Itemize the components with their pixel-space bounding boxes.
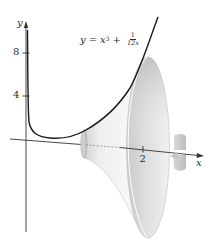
horn-narrow-end [81, 130, 87, 158]
eq-fraction: 1 12x [126, 32, 140, 46]
curve-equation-label: y = x3 + 1 12x [80, 32, 140, 46]
y-axis-label: y [17, 18, 23, 28]
eq-term1-base: x [100, 34, 106, 45]
y-tick-label-8: 8 [13, 47, 19, 57]
x-tick-label-2: 2 [140, 154, 146, 164]
eq-lhs: y [80, 34, 86, 45]
horn-mouth-shade [127, 57, 170, 238]
y-tick-label-4: 4 [13, 90, 19, 100]
eq-equals: = [89, 34, 97, 45]
eq-frac-denominator: 12x [126, 40, 140, 47]
surface-of-revolution-figure: y x 8 4 2 y = x3 + 1 12x [0, 0, 213, 245]
rotation-arrow-icon [170, 134, 186, 171]
eq-plus: + [113, 34, 121, 45]
y-axis-arrow-icon [24, 21, 28, 28]
x-axis-label: x [196, 158, 202, 168]
x-axis-left [10, 139, 84, 145]
